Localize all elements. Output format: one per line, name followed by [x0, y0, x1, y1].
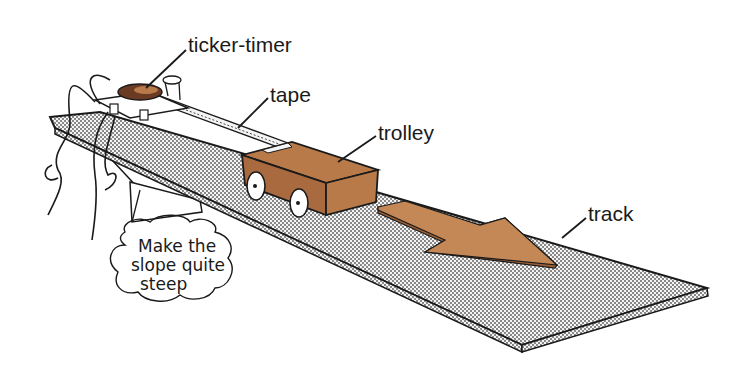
label-ticker-timer: ticker-timer — [188, 34, 292, 55]
track — [50, 112, 708, 352]
note-line-2: slope quite — [131, 255, 225, 275]
note-line-3: steep — [140, 274, 187, 294]
label-trolley: trolley — [378, 122, 434, 143]
label-track: track — [588, 203, 634, 224]
note-line-1: Make the — [138, 236, 216, 256]
label-tape: tape — [270, 84, 311, 105]
apparatus-illustration — [0, 0, 736, 378]
ticker-timer — [95, 76, 188, 120]
